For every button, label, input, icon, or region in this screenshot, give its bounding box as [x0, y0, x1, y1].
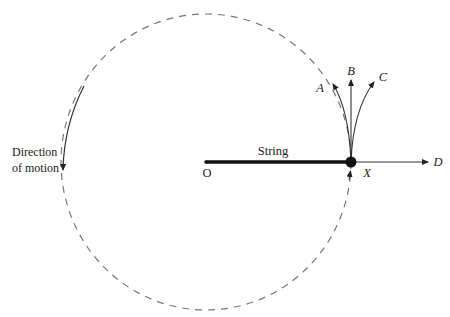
circular-motion-diagram: String O X A B C D Direction of motion: [0, 0, 450, 317]
path-label-c: C: [379, 70, 388, 84]
path-label-b: B: [347, 64, 355, 78]
center-label-o: O: [202, 166, 211, 180]
path-c-arrow: [351, 82, 374, 162]
ball-x: [346, 157, 357, 168]
direction-label-line1: Direction: [12, 145, 57, 159]
center-point-o: [204, 160, 208, 164]
direction-label-line2: of motion: [12, 161, 59, 175]
path-label-d: D: [432, 155, 442, 169]
ball-label-x: X: [362, 166, 372, 180]
path-label-a: A: [315, 81, 324, 95]
string-label: String: [258, 144, 289, 158]
direction-of-motion-arrow: [63, 86, 84, 170]
